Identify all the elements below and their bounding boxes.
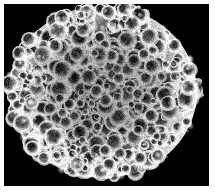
micrograph-frame xyxy=(4,4,209,186)
sem-micrograph-image xyxy=(4,4,209,186)
micrograph-page: Black and white scanning electron microg… xyxy=(0,0,215,193)
